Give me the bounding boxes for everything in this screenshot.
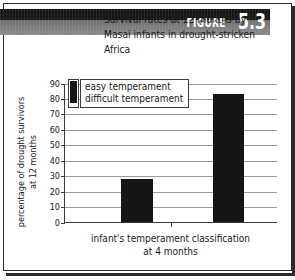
legend-swatch-difficult <box>70 92 77 103</box>
y-axis-label-line-1: percentage of drought survivors <box>15 87 27 237</box>
y-axis-tick-label: 10 <box>38 203 60 212</box>
y-axis-tick-label: 90 <box>38 80 60 89</box>
y-axis-tick <box>61 145 65 146</box>
y-axis-tick <box>61 176 65 177</box>
y-axis-label: percentage of drought survivors at 12 mo… <box>15 87 39 237</box>
legend-labels: easy temperament difficult temperament <box>80 79 189 108</box>
x-axis-label: infant's temperament classification at 4… <box>64 232 277 258</box>
gridline <box>65 130 277 131</box>
y-axis-tick <box>61 114 65 115</box>
gridline <box>65 207 277 208</box>
y-axis-tick-label: 80 <box>38 95 60 104</box>
legend-item-difficult: difficult temperament <box>85 93 183 105</box>
y-axis-tick <box>61 207 65 208</box>
gridline <box>65 145 277 146</box>
y-axis-tick-label: 40 <box>38 157 60 166</box>
legend-swatches <box>68 79 79 108</box>
x-axis-label-line-1: infant's temperament classification <box>64 232 277 245</box>
bar-easy <box>121 179 153 222</box>
gridline <box>65 161 277 162</box>
y-axis-tick-label: 30 <box>38 172 60 181</box>
y-axis-tick <box>61 84 65 85</box>
y-axis-tick <box>61 223 65 224</box>
y-axis-tick-label: 20 <box>38 188 60 197</box>
legend-item-easy: easy temperament <box>85 81 183 93</box>
bar-chart: percentage of drought survivors at 12 mo… <box>0 0 295 280</box>
gridline <box>65 192 277 193</box>
legend-swatch-easy <box>70 81 77 92</box>
y-axis-tick <box>61 99 65 100</box>
chart-legend: easy temperament difficult temperament <box>68 79 189 108</box>
x-axis-tick <box>171 223 172 227</box>
x-axis-label-line-2: at 4 months <box>64 245 277 258</box>
y-axis-tick-label: 50 <box>38 141 60 150</box>
y-axis-tick <box>61 161 65 162</box>
y-axis-tick <box>61 130 65 131</box>
gridline <box>65 114 277 115</box>
figure-panel: FIGURE 5.3 Survival rates at 12 months b… <box>0 0 295 280</box>
gridline <box>65 176 277 177</box>
y-axis-tick-label: 70 <box>38 110 60 119</box>
y-axis-tick <box>61 192 65 193</box>
y-axis-tick-label: 60 <box>38 126 60 135</box>
bar-difficult <box>213 94 244 222</box>
y-axis-tick-label: 0 <box>38 219 60 228</box>
